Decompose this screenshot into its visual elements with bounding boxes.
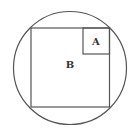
- label-a: A: [91, 36, 100, 47]
- label-b: B: [66, 59, 74, 70]
- diagram-canvas: A B: [0, 0, 133, 133]
